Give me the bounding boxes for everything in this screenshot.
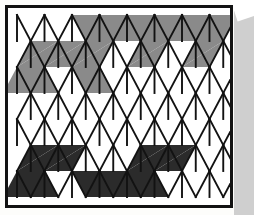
lattice-line-diagonal <box>86 119 100 145</box>
lattice-line-diagonal <box>86 145 100 171</box>
lattice-line-diagonal <box>168 41 182 67</box>
lattice-line-diagonal <box>31 93 45 119</box>
lattice-line-diagonal <box>168 67 182 93</box>
lattice-line-diagonal <box>210 171 224 197</box>
lattice-line-diagonal <box>58 67 72 93</box>
lattice-line-diagonal <box>86 93 100 119</box>
lattice-line-diagonal <box>31 119 45 145</box>
lattice-line-diagonal <box>58 15 72 41</box>
lattice-line-diagonal <box>196 119 210 145</box>
lattice-line-diagonal <box>127 93 141 119</box>
lattice-line-diagonal <box>155 93 169 119</box>
lattice-line-diagonal <box>168 119 182 145</box>
lattice-line-diagonal <box>141 119 155 145</box>
lattice-line-diagonal <box>196 93 210 119</box>
lattice-line-diagonal <box>113 145 127 171</box>
lattice-line-diagonal <box>210 119 224 145</box>
lattice-line-diagonal <box>141 67 155 93</box>
lattice-line-diagonal <box>72 93 86 119</box>
scan-gutter-right <box>234 0 254 215</box>
lattice-line-diagonal <box>58 119 72 145</box>
lattice-line-diagonal <box>155 67 169 93</box>
lattice-line-diagonal <box>155 119 169 145</box>
lattice-line-diagonal <box>100 93 114 119</box>
lattice-line-diagonal <box>210 93 224 119</box>
lattice-line-diagonal <box>45 119 59 145</box>
lattice-line-diagonal <box>223 41 230 67</box>
lattice-line-diagonal <box>182 67 196 93</box>
lattice-line-diagonal <box>141 93 155 119</box>
lattice-line-diagonal <box>58 93 72 119</box>
lattice-line-diagonal <box>113 41 127 67</box>
triangular-lattice <box>8 8 230 205</box>
lattice-line-diagonal <box>182 119 196 145</box>
lattice-line-diagonal <box>113 93 127 119</box>
lattice-line-diagonal <box>72 119 86 145</box>
lattice-line-diagonal <box>196 145 210 171</box>
lattice-line-diagonal <box>127 67 141 93</box>
lattice-line-diagonal <box>223 119 230 145</box>
lattice-line-diagonal <box>100 119 114 145</box>
lattice-line-diagonal <box>223 67 230 93</box>
lattice-line-diagonal <box>100 145 114 171</box>
lattice-line-diagonal <box>17 93 31 119</box>
figure-frame <box>5 5 233 208</box>
lattice-line-diagonal <box>58 171 72 197</box>
lattice-line-diagonal <box>182 93 196 119</box>
lattice-line-diagonal <box>196 171 210 197</box>
lattice-line-diagonal <box>223 145 230 171</box>
lattice-line-diagonal <box>45 15 59 41</box>
lattice-line-diagonal <box>113 67 127 93</box>
lattice-line-diagonal <box>17 119 31 145</box>
lattice-line-diagonal <box>113 119 127 145</box>
lattice-line-diagonal <box>31 15 45 41</box>
lattice-line-diagonal <box>182 171 196 197</box>
lattice-line-diagonal <box>210 145 224 171</box>
lattice-line-diagonal <box>223 171 230 197</box>
lattice-line-diagonal <box>168 171 182 197</box>
lattice-line-diagonal <box>223 93 230 119</box>
lattice-line-diagonal <box>168 93 182 119</box>
lattice-line-diagonal <box>127 119 141 145</box>
lattice-line-diagonal <box>210 67 224 93</box>
lattice-line-diagonal <box>17 15 31 41</box>
lattice-line-diagonal <box>196 67 210 93</box>
lattice-line-diagonal <box>45 93 59 119</box>
figure-canvas: Triangular lattice grid with shaded regi… <box>0 0 254 215</box>
